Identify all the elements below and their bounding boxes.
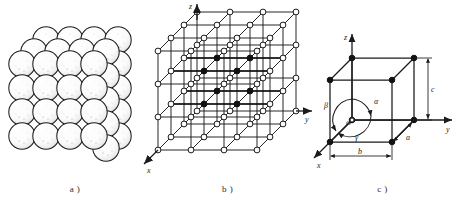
panel-c-z-axis-label: z xyxy=(343,33,348,42)
panel-c-caption: c ) xyxy=(300,184,465,194)
panel-a-hard-sphere-model: a ) xyxy=(0,0,150,200)
angle-alpha-label: α xyxy=(374,97,379,106)
lattice-wireframe xyxy=(158,12,296,150)
panel-c-unit-cell: z y x O α β γ b xyxy=(300,0,465,200)
x-axis-line xyxy=(144,150,158,164)
origin-label: O xyxy=(346,119,351,127)
panel-b-space-lattice: z y x b ) xyxy=(140,0,315,200)
edge-length-b-label: b xyxy=(358,147,362,156)
space-lattice-svg: z y x xyxy=(140,0,315,175)
angle-beta-label: β xyxy=(323,101,328,110)
unit-cell-svg: z y x O α β γ b xyxy=(300,0,465,175)
crystal-structure-figure: a ) xyxy=(0,0,465,200)
angle-alpha-arc xyxy=(352,99,371,116)
panel-b-z-axis-label: z xyxy=(188,2,193,11)
panel-a-caption: a ) xyxy=(0,184,150,194)
angle-gamma-label: γ xyxy=(355,133,359,142)
dimension-c xyxy=(414,58,432,120)
panel-c-y-axis-label: y xyxy=(445,125,450,134)
edge-length-a-label: a xyxy=(406,133,410,142)
hard-sphere-packing-svg xyxy=(0,0,150,175)
edge-length-c-label: c xyxy=(431,85,435,94)
panel-c-axes xyxy=(314,34,452,158)
panel-b-caption: b ) xyxy=(140,184,315,194)
panel-b-x-axis-label: x xyxy=(146,166,151,175)
panel-c-x-axis-label: x xyxy=(316,161,321,170)
